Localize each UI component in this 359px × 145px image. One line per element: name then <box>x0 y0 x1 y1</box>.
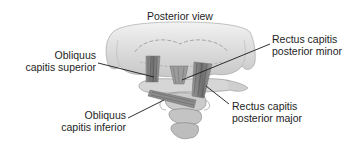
label-line-1: Rectus capitis <box>272 33 342 45</box>
label-line-1: Obliquus <box>25 49 96 61</box>
label-line-2: posterior minor <box>272 45 342 57</box>
label-rectus-capitis-posterior-minor: Rectus capitis posterior minor <box>272 33 342 57</box>
label-obliquus-capitis-inferior: Obliquus capitis inferior <box>61 109 126 133</box>
label-line-1: Rectus capitis <box>232 100 302 112</box>
label-line-2: capitis superior <box>25 61 96 73</box>
label-line-2: capitis inferior <box>61 121 126 133</box>
leader-obliquus-inferior <box>128 100 164 118</box>
label-line-1: Obliquus <box>61 109 126 121</box>
anatomy-diagram: Posterior view Obliquus capitis superior… <box>0 0 359 145</box>
label-obliquus-capitis-superior: Obliquus capitis superior <box>25 49 96 73</box>
view-title: Posterior view <box>147 10 213 22</box>
label-line-2: posterior major <box>232 112 302 124</box>
label-rectus-capitis-posterior-major: Rectus capitis posterior major <box>232 100 302 124</box>
